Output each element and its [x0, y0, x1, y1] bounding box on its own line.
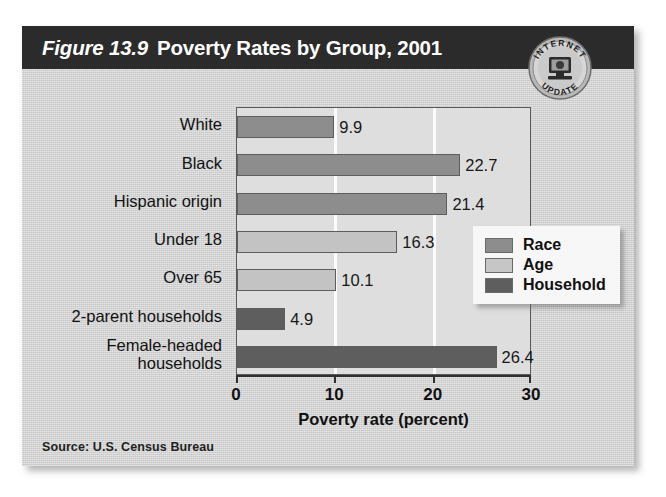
bar-row: 9.9 — [237, 116, 532, 138]
bar-value-label: 22.7 — [460, 156, 497, 175]
page-title: Figure 13.9Poverty Rates by Group, 2001 — [42, 36, 442, 60]
x-axis-title: Poverty rate (percent) — [236, 410, 531, 429]
bar-value-label: 4.9 — [285, 309, 313, 328]
bar-household — [237, 346, 497, 368]
legend-swatch-household — [485, 278, 513, 293]
chart-legend: RaceAgeHousehold — [473, 226, 620, 304]
bar-value-label: 26.4 — [497, 347, 534, 366]
bar-value-label: 21.4 — [447, 194, 484, 213]
y-axis-label: Black — [182, 155, 222, 173]
bar-row: 22.7 — [237, 154, 532, 176]
source-note: Source: U.S. Census Bureau — [42, 440, 214, 454]
figure-number: Figure 13.9 — [42, 36, 148, 59]
y-axis-label: Female-headed households — [106, 337, 222, 372]
legend-swatch-race — [485, 238, 513, 253]
x-tick — [433, 375, 435, 383]
bar-value-label: 10.1 — [336, 271, 373, 290]
x-tick-label: 20 — [423, 385, 442, 405]
bar-age — [237, 231, 397, 253]
figure-card: Figure 13.9Poverty Rates by Group, 2001 — [22, 26, 634, 466]
x-tick-label: 10 — [325, 385, 344, 405]
figure-title-text: Poverty Rates by Group, 2001 — [157, 36, 442, 59]
bar-age — [237, 269, 336, 291]
legend-item-household: Household — [485, 275, 610, 295]
x-axis-line: 0102030 — [236, 375, 531, 377]
badge-seal-icon: INTERNET UPDATE — [522, 30, 598, 106]
bar-race — [237, 154, 460, 176]
y-axis-label: 2-parent households — [72, 308, 222, 326]
internet-update-badge: INTERNET UPDATE — [522, 30, 598, 106]
bar-row: 21.4 — [237, 193, 532, 215]
page-background: Figure 13.9Poverty Rates by Group, 2001 — [0, 0, 666, 497]
x-tick-label: 0 — [231, 385, 240, 405]
x-tick — [236, 375, 238, 383]
computer-monitor-icon — [548, 57, 572, 80]
y-axis-label: Over 65 — [163, 269, 222, 287]
x-tick — [334, 375, 336, 383]
bar-household — [237, 308, 285, 330]
bar-row: 26.4 — [237, 346, 532, 368]
bar-row: 4.9 — [237, 308, 532, 330]
y-axis-label: Hispanic origin — [114, 193, 222, 211]
x-tick-label: 30 — [522, 385, 541, 405]
y-axis-label: White — [180, 116, 222, 134]
y-axis-category-labels: WhiteBlackHispanic originUnder 18Over 65… — [22, 107, 231, 375]
y-axis-label: Under 18 — [154, 231, 222, 249]
legend-label: Age — [523, 256, 553, 274]
legend-item-age: Age — [485, 255, 610, 275]
legend-label: Household — [523, 276, 606, 294]
x-tick — [529, 375, 531, 383]
bar-race — [237, 193, 447, 215]
legend-swatch-age — [485, 258, 513, 273]
legend-label: Race — [523, 236, 561, 254]
bar-race — [237, 116, 334, 138]
bar-value-label: 16.3 — [397, 233, 434, 252]
bar-value-label: 9.9 — [334, 118, 362, 137]
legend-item-race: Race — [485, 235, 610, 255]
